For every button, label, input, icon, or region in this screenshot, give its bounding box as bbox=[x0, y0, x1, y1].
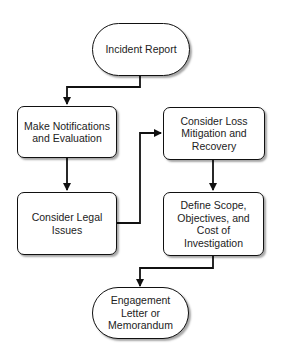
node-engagement-letter: Engagement Letter or Memorandum bbox=[92, 287, 189, 339]
node-label: Consider Loss Mitigation and Recovery bbox=[180, 115, 247, 153]
edge-incident-to-notifications bbox=[67, 76, 140, 104]
node-consider-loss-mitigation: Consider Loss Mitigation and Recovery bbox=[163, 107, 265, 160]
edge-scope-to-engagement bbox=[140, 256, 213, 286]
node-label: Define Scope, Objectives, and Cost of In… bbox=[177, 199, 249, 249]
edge-legal-to-loss-mitigation bbox=[117, 133, 161, 223]
node-label: Engagement Letter or Memorandum bbox=[108, 294, 173, 332]
node-label: Incident Report bbox=[105, 43, 176, 56]
node-define-scope: Define Scope, Objectives, and Cost of In… bbox=[163, 192, 264, 256]
node-consider-legal-issues: Consider Legal Issues bbox=[17, 192, 117, 255]
node-label: Consider Legal Issues bbox=[32, 211, 103, 236]
node-label: Make Notifications and Evaluation bbox=[24, 120, 110, 145]
node-make-notifications: Make Notifications and Evaluation bbox=[17, 106, 117, 158]
node-incident-report: Incident Report bbox=[92, 23, 190, 76]
